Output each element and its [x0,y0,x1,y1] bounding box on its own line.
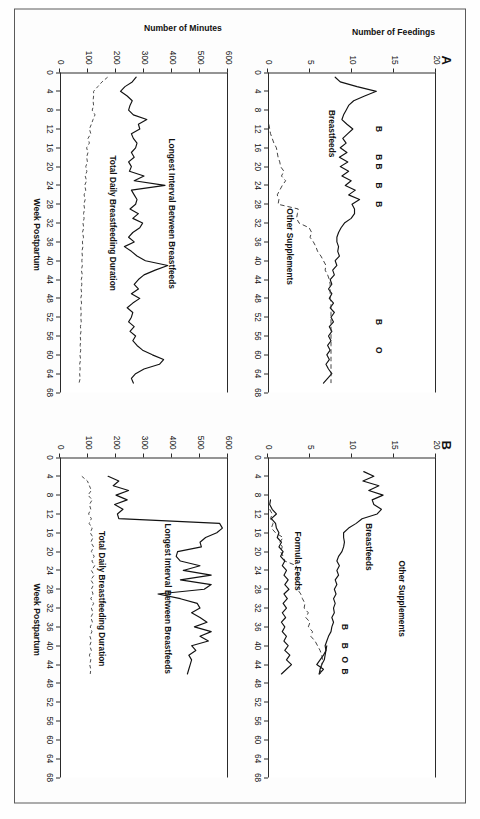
y-tick [116,68,117,72]
x-tick [56,109,60,110]
x-tick-label: 48 [45,293,54,302]
x-tick [56,260,60,261]
y-tick [88,453,89,457]
x-tick-label: 48 [253,293,262,302]
x-tick-label: 12 [45,509,54,518]
x-tick-label: 32 [45,603,54,612]
x-tick-label: 52 [253,312,262,321]
x-tick-label: 68 [45,387,54,396]
x-tick [56,532,60,533]
x-tick [264,701,268,702]
x-tick [56,475,60,476]
y-tick-label: 100 [84,435,93,449]
x-tick-label: 20 [253,547,262,556]
x-tick-label: 68 [253,772,262,781]
x-tick [264,316,268,317]
y-tick-label: 500 [196,435,205,449]
y-tick-label: 0 [56,444,65,449]
y-tick [310,68,311,72]
y-tick [228,68,229,72]
y-tick-label: 600 [224,50,233,64]
x-tick [264,373,268,374]
x-tick-label: 0 [253,70,262,75]
panel-a-y-axis-title: Number of Feedings [352,26,435,36]
x-tick [264,297,268,298]
y-tick [144,453,145,457]
x-tick [56,569,60,570]
series-annotation-label: Breastfeeds [327,109,337,157]
x-tick-label: 52 [45,697,54,706]
y-tick-label: 200 [112,50,121,64]
event-marker: O [374,346,384,353]
x-tick-label: 40 [45,256,54,265]
x-tick [264,279,268,280]
event-marker: B [340,623,350,629]
x-tick-label: 24 [45,565,54,574]
x-tick-label: 8 [253,107,262,112]
y-tick [228,453,229,457]
y-tick-label: 500 [196,50,205,64]
panel-b-letter: B [439,440,454,449]
x-tick [56,513,60,514]
x-tick-label: 16 [45,528,54,537]
x-tick-label: 36 [253,622,262,631]
y-tick [268,453,269,457]
y-tick-label: 10 [348,440,357,449]
y-tick [436,68,437,72]
x-tick-label: 4 [45,474,54,479]
x-tick-label: 20 [45,547,54,556]
x-tick-label: 44 [45,659,54,668]
x-tick-label: 32 [253,218,262,227]
x-tick [264,551,268,552]
x-tick-label: 36 [45,622,54,631]
x-tick-label: 4 [253,474,262,479]
y-tick [60,68,61,72]
x-tick [56,90,60,91]
x-tick [56,758,60,759]
x-tick [264,184,268,185]
y-tick-label: 400 [168,435,177,449]
x-tick-label: 12 [253,509,262,518]
y-tick-label: 0 [264,444,273,449]
x-tick-label: 40 [45,641,54,650]
x-tick [56,354,60,355]
x-tick-label: 48 [253,678,262,687]
y-tick [60,453,61,457]
x-tick-label: 0 [45,70,54,75]
x-tick [56,222,60,223]
y-tick-label: 15 [390,55,399,64]
y-tick [200,68,201,72]
y-tick-label: 200 [112,435,121,449]
x-tick [56,588,60,589]
x-tick-label: 20 [253,162,262,171]
x-tick [56,777,60,778]
x-tick [264,626,268,627]
x-tick [264,335,268,336]
x-tick-label: 48 [45,678,54,687]
event-marker: B [374,201,384,207]
x-tick [264,260,268,261]
x-tick-label: 28 [253,584,262,593]
event-marker: B [374,154,384,160]
x-tick [264,147,268,148]
x-tick-label: 44 [45,274,54,283]
panel-b-minutes-lines [60,457,228,777]
event-marker: B [374,125,384,131]
x-tick-label: 36 [45,237,54,246]
x-tick [264,664,268,665]
x-tick [56,373,60,374]
x-tick [56,316,60,317]
figure-page: A 04812162024283236404448525660646805101… [0,0,480,819]
y-tick-label: 300 [140,50,149,64]
y-tick [310,453,311,457]
event-marker: B [374,182,384,188]
event-marker: B [374,163,384,169]
x-tick-label: 56 [253,716,262,725]
y-tick [352,453,353,457]
x-tick-label: 56 [253,331,262,340]
y-tick-label: 300 [140,435,149,449]
x-tick-label: 60 [45,350,54,359]
y-tick [172,453,173,457]
y-tick-label: 20 [432,55,441,64]
x-tick-label: 44 [253,659,262,668]
